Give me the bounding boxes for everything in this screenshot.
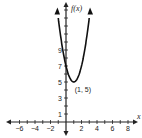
svg-text:4: 4 — [95, 125, 99, 132]
x-axis-label: x — [136, 112, 141, 121]
svg-text:−2: −2 — [47, 125, 55, 132]
axes: −6−4−2246813579 — [6, 2, 138, 136]
svg-text:−6: −6 — [16, 125, 24, 132]
svg-text:3: 3 — [58, 95, 62, 102]
svg-text:−4: −4 — [31, 125, 39, 132]
svg-text:9: 9 — [58, 47, 62, 54]
svg-text:2: 2 — [80, 125, 84, 132]
svg-text:6: 6 — [111, 125, 115, 132]
svg-text:5: 5 — [58, 79, 62, 86]
vertex-label: (1, 5) — [75, 86, 91, 94]
parabola-chart: −6−4−2246813579 (1, 5) x f(x) — [0, 0, 142, 138]
y-axis-label: f(x) — [71, 4, 82, 13]
svg-text:1: 1 — [58, 111, 62, 118]
svg-text:8: 8 — [126, 125, 130, 132]
parabola-curve — [54, 7, 93, 82]
svg-text:7: 7 — [58, 63, 62, 70]
